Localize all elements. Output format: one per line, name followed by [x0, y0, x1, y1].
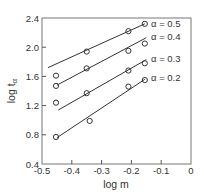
x-tick-label: -0.1	[153, 165, 169, 176]
fit-line	[58, 60, 146, 110]
x-tick-label: -0.2	[123, 165, 139, 176]
y-axis: 0.40.81.21.62.02.4	[26, 13, 46, 170]
y-axis-label: log tα	[5, 78, 19, 103]
y-tick-label: 1.2	[26, 100, 39, 111]
x-axis-label: log m	[103, 178, 129, 190]
data-point	[87, 118, 92, 123]
y-tick-label: 1.6	[26, 71, 39, 82]
y-tick-label: 0.4	[26, 159, 39, 170]
legend-label: α = 0.4	[151, 31, 181, 42]
x-tick-label: 0	[188, 165, 193, 176]
x-axis: -0.5-0.4-0.3-0.2-0.10	[34, 160, 194, 176]
legend-label: α = 0.3	[151, 53, 181, 64]
data-points	[53, 21, 147, 139]
y-tick-label: 2.4	[26, 13, 39, 24]
fit-line	[57, 79, 145, 137]
data-point	[142, 41, 147, 46]
y-axis-label-main: log t	[5, 83, 17, 103]
data-point	[53, 73, 58, 78]
legend-label: α = 0.2	[151, 72, 181, 83]
data-point	[126, 48, 131, 53]
legend-label: α = 0.5	[151, 18, 181, 29]
y-axis-label-subscript: α	[10, 78, 19, 83]
fit-lines	[48, 24, 146, 138]
data-point	[142, 61, 147, 66]
chart: -0.5-0.4-0.3-0.2-0.10 0.40.81.21.62.02.4…	[0, 0, 204, 195]
y-tick-label: 2.0	[26, 42, 39, 53]
fit-line	[57, 38, 146, 85]
data-point	[53, 83, 58, 88]
legend: α = 0.5α = 0.4α = 0.3α = 0.2	[151, 18, 181, 83]
x-tick-label: -0.3	[93, 165, 109, 176]
data-point	[126, 84, 131, 89]
data-point	[53, 100, 58, 105]
svg-text:log tα: log tα	[5, 78, 19, 103]
x-tick-label: -0.4	[64, 165, 80, 176]
y-tick-label: 0.8	[26, 129, 39, 140]
